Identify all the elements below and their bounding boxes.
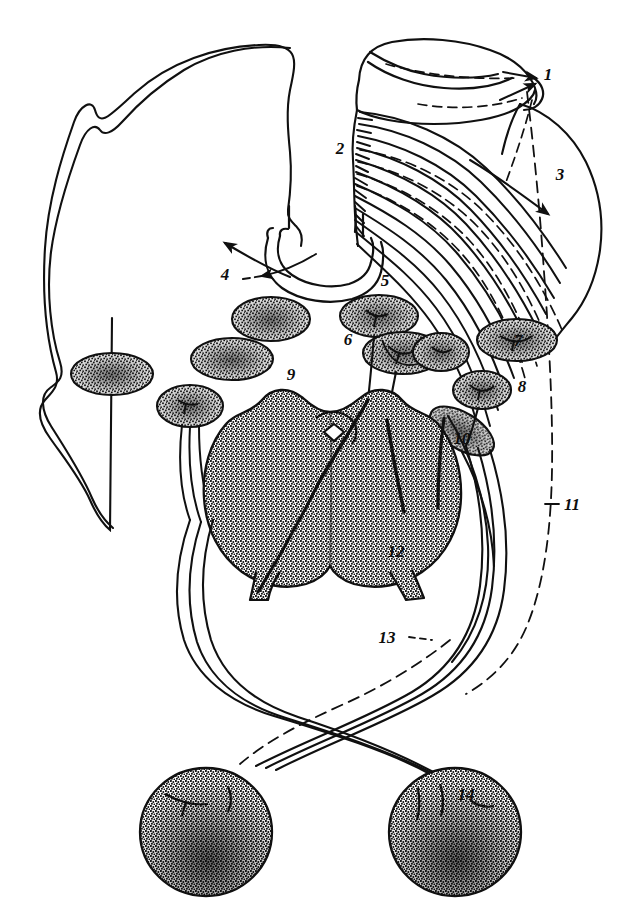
lymph-node-oval <box>232 297 310 341</box>
lymph-node-oval-6b <box>413 333 469 371</box>
lymph-node-oval-8 <box>453 371 511 409</box>
lymphatic-diagram: 1 2 3 4 5 6 7 8 9 10 11 12 13 14 <box>0 0 634 920</box>
label-3: 3 <box>555 165 565 184</box>
label-5: 5 <box>381 271 390 290</box>
label-6: 6 <box>344 330 353 349</box>
lymph-node-sphere <box>389 768 521 896</box>
label-8: 8 <box>518 377 527 396</box>
label-14: 14 <box>458 785 475 804</box>
label-12: 12 <box>388 542 406 561</box>
lymph-node-sphere <box>140 768 272 896</box>
label-13: 13 <box>379 628 397 647</box>
label-11: 11 <box>564 495 580 514</box>
label-10: 10 <box>454 429 472 448</box>
lymph-node-oval <box>157 385 223 427</box>
lymph-node-oval <box>71 353 153 395</box>
label-2: 2 <box>335 139 345 158</box>
label-1: 1 <box>544 65 553 84</box>
figure-root: 1 2 3 4 5 6 7 8 9 10 11 12 13 14 <box>0 0 634 920</box>
label-9: 9 <box>287 365 296 384</box>
central-lobed-organ <box>204 390 461 600</box>
label-4: 4 <box>220 265 230 284</box>
lymph-node-oval <box>191 338 273 380</box>
